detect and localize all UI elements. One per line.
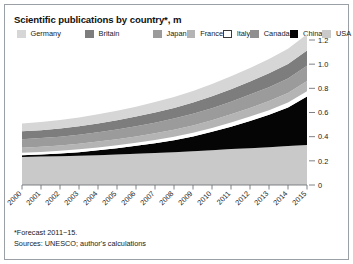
figure-frame bbox=[4, 4, 349, 260]
legend-swatch-icon bbox=[153, 30, 162, 39]
chart-title: Scientific publications by country*, m bbox=[14, 14, 181, 25]
legend-label: China bbox=[303, 30, 322, 37]
legend-label: Italy bbox=[237, 30, 251, 37]
legend-label: Japan bbox=[167, 30, 187, 37]
legend-item-canada: Canada bbox=[250, 27, 289, 41]
legend-label: France bbox=[200, 30, 223, 37]
footnotes: *Forecast 2011−15. Sources: UNESCO; auth… bbox=[14, 228, 146, 249]
legend-swatch-icon bbox=[322, 30, 331, 39]
chart-legend: GermanyBritainJapanFranceItalyCanadaChin… bbox=[17, 27, 177, 41]
legend-item-germany: Germany bbox=[17, 27, 85, 41]
chart-figure: Scientific publications by country*, m G… bbox=[0, 0, 353, 264]
legend-swatch-icon bbox=[223, 30, 232, 39]
legend-swatch-icon bbox=[187, 30, 196, 39]
legend-label: Germany bbox=[31, 30, 61, 37]
legend-item-italy: Italy bbox=[223, 27, 250, 41]
legend-label: Britain bbox=[99, 30, 120, 37]
legend-item-japan: Japan bbox=[153, 27, 187, 41]
legend-item-france: France bbox=[187, 27, 224, 41]
legend-swatch-icon bbox=[250, 30, 259, 39]
footnote-forecast: *Forecast 2011−15. bbox=[14, 228, 146, 239]
legend-swatch-icon bbox=[290, 30, 299, 39]
legend-swatch-icon bbox=[85, 30, 94, 39]
footnote-sources: Sources: UNESCO; author's calculations bbox=[14, 239, 146, 250]
legend-item-china: China bbox=[290, 27, 323, 41]
legend-label: Canada bbox=[264, 30, 290, 37]
legend-item-britain: Britain bbox=[85, 27, 153, 41]
legend-label: USA bbox=[336, 30, 351, 37]
legend-item-usa: USA bbox=[322, 27, 351, 41]
legend-swatch-icon bbox=[17, 30, 26, 39]
